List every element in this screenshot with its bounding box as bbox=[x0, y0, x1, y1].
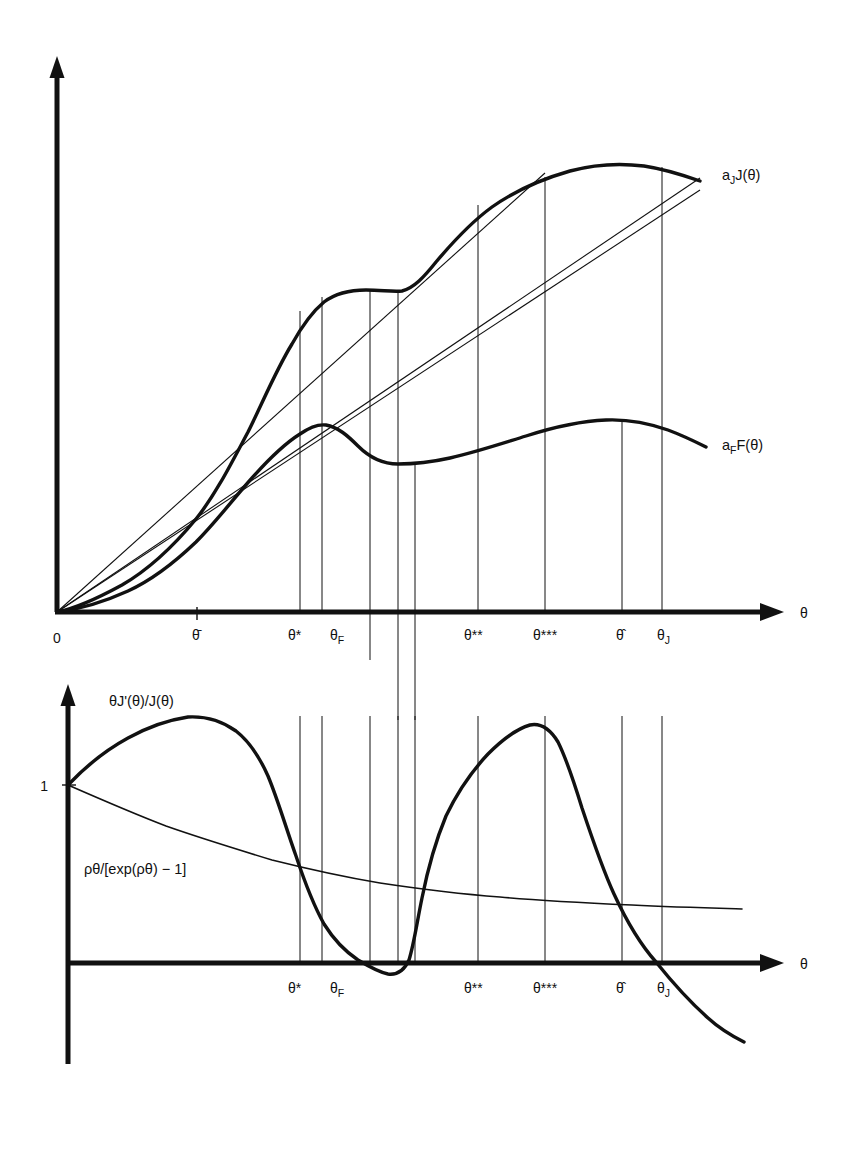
top-x-axis-label: θ bbox=[800, 605, 808, 621]
bottom-label-elasticity: θJ'(θ)/J(θ) bbox=[109, 693, 174, 709]
bottom-tick-label-theta-2star: θ** bbox=[464, 980, 483, 996]
bottom-label-discount: ρθ/[exp(ρθ) − 1] bbox=[84, 861, 186, 877]
bottom-tick-label-theta-3star: θ*** bbox=[533, 980, 558, 996]
label-af-tail: F(θ) bbox=[737, 437, 764, 453]
top-tick-label-theta-3star: θ*** bbox=[533, 627, 558, 643]
bottom-x-axis-label: θ bbox=[800, 956, 808, 972]
figure-root: aJJ(θ) aFF(θ) θ 0 θ̄ θ* θF θ** θ*** θ̂ θ… bbox=[0, 0, 851, 1156]
bottom-y-tick-label-one: 1 bbox=[40, 778, 48, 794]
top-tick-label-theta-star: θ* bbox=[288, 627, 302, 643]
label-aj-tail: J(θ) bbox=[735, 167, 760, 183]
top-tick-label-theta-2star: θ** bbox=[464, 627, 483, 643]
figure-canvas: aJJ(θ) aFF(θ) θ 0 θ̄ θ* θF θ** θ*** θ̂ θ… bbox=[0, 0, 851, 1156]
bottom-tick-label-theta-star: θ* bbox=[288, 980, 302, 996]
top-origin-label: 0 bbox=[53, 630, 61, 646]
